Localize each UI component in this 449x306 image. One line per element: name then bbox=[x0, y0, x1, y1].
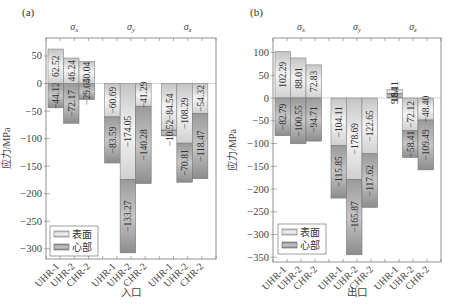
y-tick-label: −250 bbox=[247, 206, 269, 217]
value-label-core: −10.52 bbox=[165, 119, 175, 146]
bar-sigma-x-chr-2: 72.83−94.71 bbox=[306, 65, 322, 141]
y-tick-label: 50 bbox=[32, 50, 43, 61]
bar-sigma-y-chr-2: −122.65−117.62 bbox=[362, 98, 378, 207]
group-title: σy bbox=[353, 21, 362, 34]
bar-sigma-z-uhr-2: −108.29−70.81 bbox=[177, 84, 193, 183]
value-label-surface: −108.29 bbox=[180, 97, 190, 129]
value-label-core: −72.17 bbox=[67, 90, 77, 117]
value-label-surface: −41.29 bbox=[139, 81, 149, 108]
value-label-core: −58.41 bbox=[406, 130, 416, 157]
value-label-core: −82.79 bbox=[278, 103, 288, 130]
bar-sigma-y-uhr-1: −60.69−83.59 bbox=[105, 84, 121, 163]
y-tick-label: −100 bbox=[20, 133, 42, 144]
value-label-core: −29.05 bbox=[82, 78, 92, 105]
value-label-surface: 88.01 bbox=[294, 67, 304, 89]
chart-panel-a: (a)500−50−100−150−200−250−300应力/MPaσx62.… bbox=[0, 6, 216, 298]
y-tick-label: −50 bbox=[26, 106, 42, 117]
group-title: σz bbox=[184, 21, 192, 34]
legend: 表面心部 bbox=[278, 224, 326, 254]
bar-sigma-y-uhr-2: −174.05−133.27 bbox=[120, 84, 135, 253]
y-tick-label: −200 bbox=[20, 188, 42, 199]
bar-sigma-z-uhr-1: −84.54−10.52 bbox=[161, 84, 177, 147]
value-label-core: −70.81 bbox=[180, 149, 190, 176]
chart-panel-b: (b)100500−50−100−150−200−250−300−350应力/M… bbox=[226, 6, 441, 298]
legend: 表面心部 bbox=[50, 226, 98, 256]
y-tick-label: −50 bbox=[253, 115, 269, 126]
legend-swatch-surface bbox=[282, 229, 297, 235]
value-label-core: −44.12 bbox=[51, 82, 61, 109]
bar-sigma-z-chr-2: −48.40−109.49 bbox=[418, 95, 434, 169]
group-title: σz bbox=[409, 21, 417, 34]
y-tick-label: 0 bbox=[37, 78, 42, 89]
value-label-surface: −60.69 bbox=[108, 87, 118, 114]
bar-sigma-z-uhr-1: 18.119.64 bbox=[387, 81, 403, 104]
value-label-surface: −104.11 bbox=[334, 106, 344, 137]
x-axis-title: 入口 bbox=[121, 287, 141, 298]
value-label-core: −115.85 bbox=[334, 156, 344, 187]
value-label-surface: 72.83 bbox=[309, 70, 319, 92]
y-tick-label: −200 bbox=[247, 184, 269, 195]
bar-sigma-y-chr-2: −41.29−140.28 bbox=[136, 81, 152, 183]
bar-sigma-y-uhr-1: −104.11−115.85 bbox=[331, 98, 347, 198]
value-label-core: −165.87 bbox=[350, 201, 360, 233]
value-label-core: −109.49 bbox=[421, 129, 431, 161]
y-tick-label: −300 bbox=[247, 229, 269, 240]
y-tick-label: −300 bbox=[20, 243, 42, 254]
group-title: σx bbox=[297, 21, 306, 34]
y-axis-title: 应力/MPa bbox=[0, 127, 12, 169]
group-title: σx bbox=[70, 21, 79, 34]
legend-swatch-surface bbox=[54, 231, 69, 237]
value-label-core: −118.47 bbox=[196, 130, 206, 161]
value-label-core: −140.28 bbox=[139, 129, 149, 161]
y-tick-label: −100 bbox=[247, 138, 269, 149]
value-label-surface: 46.24 bbox=[67, 60, 77, 82]
bar-sigma-x-uhr-1: 62.52−44.12 bbox=[48, 49, 64, 109]
bar-sigma-x-chr-2: 40.04−29.05 bbox=[79, 61, 95, 104]
y-tick-label: 0 bbox=[264, 93, 269, 104]
y-axis-title: 应力/MPa bbox=[226, 129, 238, 171]
panel-label: (b) bbox=[250, 6, 263, 19]
value-label-core: −100.55 bbox=[294, 105, 304, 137]
value-label-core: −94.71 bbox=[309, 106, 319, 133]
y-tick-label: −350 bbox=[247, 252, 269, 263]
value-label-core: −83.59 bbox=[108, 126, 118, 153]
y-tick-label: 50 bbox=[259, 70, 270, 81]
legend-swatch-core bbox=[282, 242, 297, 248]
bar-sigma-y-uhr-2: −178.69−165.87 bbox=[347, 98, 363, 255]
y-tick-label: −250 bbox=[20, 216, 42, 227]
bar-sigma-x-uhr-1: 102.29−82.79 bbox=[275, 51, 291, 135]
value-label-core: −133.27 bbox=[123, 200, 133, 232]
value-label-surface: −48.40 bbox=[421, 95, 431, 122]
value-label-surface: −178.69 bbox=[350, 123, 360, 155]
value-label-surface: −174.05 bbox=[123, 115, 133, 147]
legend-swatch-core bbox=[54, 244, 69, 250]
legend-label-core: 心部 bbox=[72, 241, 92, 253]
y-tick-label: −150 bbox=[247, 161, 269, 172]
bar-sigma-z-chr-2: −54.32−118.47 bbox=[192, 84, 208, 179]
value-label-core: 9.64 bbox=[390, 87, 400, 104]
legend-label-surface: 表面 bbox=[72, 228, 92, 240]
value-label-surface: 62.52 bbox=[51, 55, 61, 77]
bar-sigma-x-uhr-2: 46.24−72.17 bbox=[64, 58, 80, 123]
value-label-surface: −54.32 bbox=[196, 85, 206, 112]
y-tick-label: −150 bbox=[20, 161, 42, 172]
bar-sigma-x-uhr-2: 88.01−100.55 bbox=[291, 58, 307, 144]
bar-sigma-z-uhr-2: −72.12−58.41 bbox=[403, 98, 419, 157]
group-title: σy bbox=[127, 21, 136, 34]
x-axis-title: 出口 bbox=[347, 286, 367, 298]
legend-label-core: 心部 bbox=[300, 239, 320, 251]
value-label-surface: −122.65 bbox=[365, 110, 375, 142]
panel-label: (a) bbox=[22, 6, 35, 19]
y-tick-label: 100 bbox=[253, 47, 269, 58]
value-label-surface: −72.12 bbox=[406, 101, 416, 128]
value-label-surface: 102.29 bbox=[278, 61, 288, 87]
legend-label-surface: 表面 bbox=[300, 226, 320, 238]
stress-comparison-figure: (a)500−50−100−150−200−250−300应力/MPaσx62.… bbox=[0, 0, 449, 306]
value-label-surface: −84.54 bbox=[165, 93, 175, 120]
value-label-core: −117.62 bbox=[365, 165, 375, 196]
